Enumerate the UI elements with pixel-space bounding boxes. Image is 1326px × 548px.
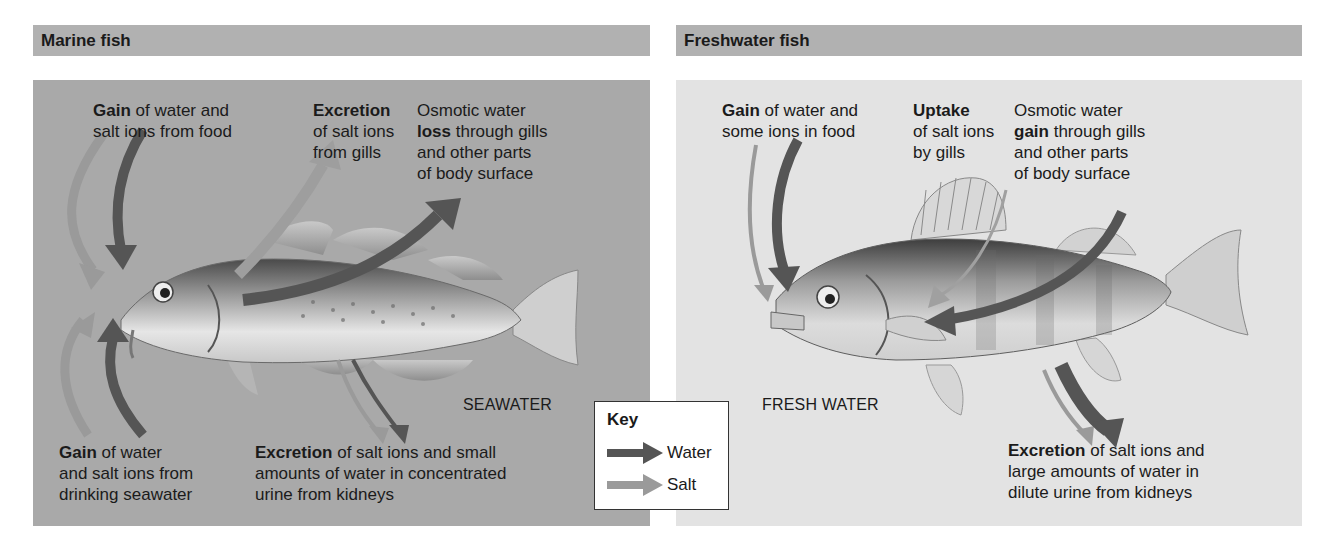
marine-fish-panel: Gain of water and salt ions from food Ex… bbox=[33, 80, 650, 526]
legend-key: Key Water Salt bbox=[594, 401, 729, 510]
label-marine-food-gain: Gain of water and salt ions from food bbox=[93, 100, 232, 142]
water-arrow-drinking bbox=[110, 338, 143, 435]
fresh-water-label: FRESH WATER bbox=[762, 396, 879, 414]
salt-arrow-drinking bbox=[65, 320, 88, 435]
salt-arrow-food bbox=[72, 135, 103, 270]
salt-arrow-food bbox=[750, 145, 764, 290]
tail-fin bbox=[513, 270, 578, 365]
label-marine-gill-excretion: Excretion of salt ions from gills bbox=[313, 100, 394, 163]
water-arrow-icon bbox=[607, 442, 663, 464]
freshwater-fish-panel: Gain of water and some ions in food Upta… bbox=[676, 80, 1302, 526]
freshwater-fish-heading: Freshwater fish bbox=[676, 25, 1302, 56]
salt-arrow-gills bbox=[238, 165, 323, 275]
label-fresh-gill-uptake: Uptake of salt ions by gills bbox=[913, 100, 994, 163]
key-item-water: Water bbox=[607, 442, 712, 464]
label-marine-osmotic-loss: Osmotic water loss through gills and oth… bbox=[417, 100, 547, 184]
key-title: Key bbox=[607, 410, 638, 430]
label-fresh-food-gain: Gain of water and some ions in food bbox=[722, 100, 858, 142]
water-arrow-food bbox=[777, 140, 798, 270]
water-arrow-food bbox=[117, 130, 143, 250]
label-marine-drinking-gain: Gain of water and salt ions from drinkin… bbox=[59, 442, 193, 505]
seawater-label: SEAWATER bbox=[463, 396, 552, 414]
marine-fish-heading: Marine fish bbox=[33, 25, 650, 56]
salt-arrow-icon bbox=[607, 474, 663, 496]
label-fresh-osmotic-gain: Osmotic water gain through gills and oth… bbox=[1014, 100, 1145, 184]
tail-fin bbox=[1166, 230, 1248, 335]
label-fresh-kidney-excretion: Excretion of salt ions and large amounts… bbox=[1008, 440, 1205, 503]
key-item-salt: Salt bbox=[607, 474, 696, 496]
label-marine-kidney-excretion: Excretion of salt ions and small amounts… bbox=[255, 442, 506, 505]
